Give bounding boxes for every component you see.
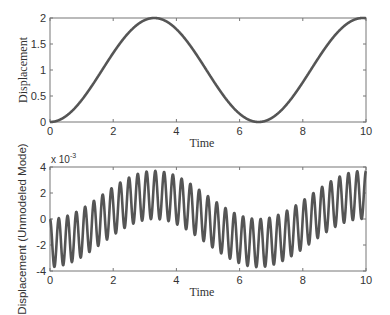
bottom-x-axis-label: Time (190, 285, 215, 299)
top-y-axis-label: Displacement (16, 36, 30, 103)
y-tick-label: 0 (40, 116, 46, 128)
x-tick-label: 0 (47, 274, 53, 286)
top-ticks: 024681000.511.52 (31, 12, 372, 137)
y-multiplier-label: x 10-3 (51, 152, 76, 165)
y-tick-label: 4 (40, 161, 46, 173)
bottom-unmodeled-mode-curve (50, 171, 366, 267)
y-tick-label: 0 (40, 213, 46, 225)
x-tick-label: 0 (47, 125, 53, 137)
x-tick-label: 4 (173, 125, 179, 137)
x-tick-label: 2 (110, 125, 116, 137)
y-tick-label: 0.5 (31, 90, 46, 102)
x-tick-label: 10 (360, 125, 372, 137)
y-tick-label: 1 (40, 64, 46, 76)
x-tick-label: 8 (300, 125, 306, 137)
top-axes-box (50, 18, 366, 122)
x-tick-label: 6 (237, 274, 243, 286)
top-displacement-curve (50, 18, 366, 122)
y-tick-label: -2 (36, 239, 46, 251)
bottom-y-axis-label: Displacement (Unmodeled Mode) (16, 143, 28, 314)
figure: 024681000.511.52 Time Displacement 02468… (0, 0, 390, 315)
y-tick-label: -4 (36, 265, 46, 277)
y-tick-label: 2 (40, 12, 46, 24)
x-tick-label: 4 (173, 274, 179, 286)
x-tick-label: 2 (110, 274, 116, 286)
bottom-plot: 0246810-4-2024 x 10-3 Time Displacement … (16, 143, 372, 314)
y-tick-label: 1.5 (31, 38, 46, 50)
y-tick-label: 2 (40, 187, 46, 199)
top-plot: 024681000.511.52 Time Displacement (16, 12, 372, 150)
x-tick-label: 8 (300, 274, 306, 286)
x-tick-label: 6 (237, 125, 243, 137)
top-x-axis-label: Time (190, 136, 215, 150)
x-tick-label: 10 (360, 274, 372, 286)
